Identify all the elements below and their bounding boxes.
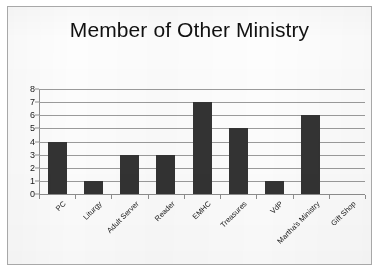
chart-container: Member of Other Ministry 012345678 PCLit… <box>7 6 372 265</box>
bar <box>156 155 175 194</box>
y-tick-label-7: 7 <box>8 98 35 107</box>
x-tick <box>148 195 149 199</box>
y-tick-mark-8 <box>35 89 39 90</box>
y-tick-mark-4 <box>35 141 39 142</box>
bar <box>84 181 103 194</box>
x-axis-label-text: Reader <box>153 200 176 223</box>
y-tick-mark-6 <box>35 115 39 116</box>
bar <box>120 155 139 194</box>
bar <box>301 115 320 194</box>
x-tick <box>111 195 112 199</box>
x-axis-label-text: EMHC <box>191 200 212 221</box>
y-tick-mark-1 <box>35 180 39 181</box>
x-axis-label: Liturgy <box>82 200 103 221</box>
chart-title: Member of Other Ministry <box>8 18 371 42</box>
x-axis-label: EMHC <box>191 200 212 221</box>
x-axis-label-text: Adult Server <box>105 200 139 234</box>
x-tick <box>365 195 366 199</box>
x-axis-label: Adult Server <box>105 200 139 234</box>
y-axis-tick-labels: 012345678 <box>8 89 35 194</box>
x-axis-label-text: Liturgy <box>82 200 103 221</box>
x-axis-label-text: PC <box>55 200 68 213</box>
y-tick-mark-0 <box>35 194 39 195</box>
x-axis-label: Reader <box>153 200 176 223</box>
y-tick-mark-5 <box>35 128 39 129</box>
bar <box>48 142 67 195</box>
x-axis-label: Treasures <box>220 200 249 229</box>
y-tick-label-8: 8 <box>8 85 35 94</box>
y-tick-mark-2 <box>35 167 39 168</box>
y-tick-label-4: 4 <box>8 137 35 146</box>
x-axis-category-labels: PCLiturgyAdult ServerReaderEMHCTreasures… <box>39 200 365 260</box>
y-tick-label-1: 1 <box>8 176 35 185</box>
y-tick-label-3: 3 <box>8 150 35 159</box>
bar <box>265 181 284 194</box>
x-axis-ticks <box>39 195 365 199</box>
y-tick-label-6: 6 <box>8 111 35 120</box>
y-tick-mark-3 <box>35 154 39 155</box>
y-tick-label-2: 2 <box>8 163 35 172</box>
x-axis-label: Gift Shop <box>330 200 357 227</box>
x-tick <box>39 195 40 199</box>
x-tick <box>220 195 221 199</box>
x-tick <box>184 195 185 199</box>
x-tick <box>256 195 257 199</box>
x-tick <box>293 195 294 199</box>
y-tick-label-5: 5 <box>8 124 35 133</box>
x-tick <box>75 195 76 199</box>
x-tick <box>329 195 330 199</box>
plot-area <box>39 89 365 194</box>
bar <box>229 128 248 194</box>
bars-layer <box>39 89 365 194</box>
bar <box>193 102 212 194</box>
x-axis-label: PC <box>55 200 68 213</box>
x-axis-label-text: VdP <box>269 200 284 215</box>
y-tick-mark-7 <box>35 102 39 103</box>
x-axis-label-text: Gift Shop <box>330 200 357 227</box>
x-axis-label-text: Treasures <box>220 200 249 229</box>
y-tick-label-0: 0 <box>8 190 35 199</box>
x-axis-label: VdP <box>269 200 284 215</box>
